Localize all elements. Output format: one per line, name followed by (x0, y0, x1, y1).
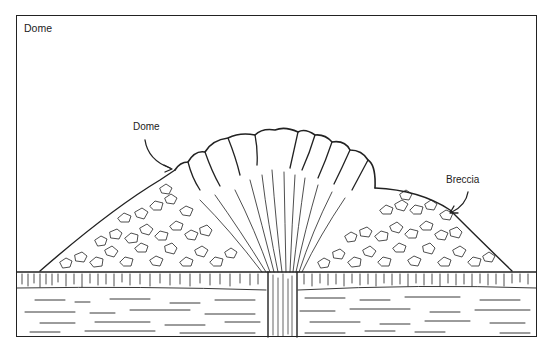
soil-layer (17, 274, 536, 290)
flow-lines (200, 170, 345, 272)
figure-title: Dome (24, 22, 52, 34)
breccia-arrow (452, 192, 468, 212)
dome-arrow (145, 140, 170, 168)
dome-label: Dome (133, 121, 160, 132)
sediment-layer (25, 297, 530, 333)
dome-lobes (188, 132, 368, 190)
conduit (268, 272, 297, 337)
breccia-label: Breccia (446, 174, 479, 185)
breccia-clasts (60, 184, 495, 268)
dome-outline (175, 128, 375, 188)
